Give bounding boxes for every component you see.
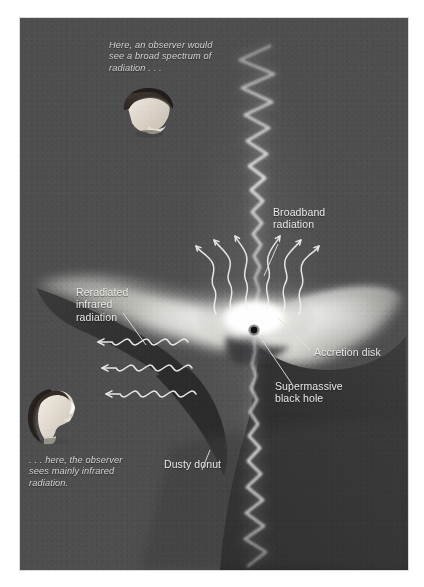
observer-head-top — [116, 86, 178, 140]
label-bottom-observer-note: . . . here, the observer sees mainly inf… — [29, 455, 122, 489]
label-reradiated-infrared: Reradiated infrared radiation — [76, 286, 128, 323]
illustration-panel: Here, an observer would see a broad spec… — [20, 18, 408, 570]
label-broadband-radiation: Broadband radiation — [273, 206, 325, 231]
observer-head-bottom — [26, 380, 88, 444]
label-dusty-donut: Dusty donut — [164, 458, 221, 470]
label-supermassive-black-hole: Supermassive black hole — [275, 380, 343, 405]
illustration-stage: Here, an observer would see a broad spec… — [0, 0, 424, 587]
black-hole-point — [248, 324, 259, 335]
label-top-observer-note: Here, an observer would see a broad spec… — [109, 40, 213, 74]
label-accretion-disk: Accretion disk — [314, 346, 381, 358]
